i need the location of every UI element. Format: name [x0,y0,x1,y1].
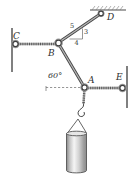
label-E: E [115,72,123,82]
diagram-canvas: C B D A E 60° 5 4 3 [0,0,132,177]
ceiling [90,6,126,10]
statics-diagram: C B D A E 60° 5 4 3 [0,0,132,177]
label-side-4: 4 [75,39,79,47]
label-side-5: 5 [70,22,74,30]
label-angle-60: 60° [48,71,62,80]
hook-icon [78,104,84,117]
rod-BD [59,14,102,43]
chain [84,91,85,104]
ring-D [98,10,104,16]
ring-E [119,84,126,91]
rod-BA [59,44,85,88]
ring-C [12,40,19,47]
label-B: B [47,48,55,58]
angle-reference-line [46,86,81,91]
weight-cylinder [67,131,87,173]
ring-B [55,39,63,47]
label-A: A [87,75,95,85]
label-D: D [106,12,114,22]
ceiling-hatch [92,6,123,10]
label-C: C [13,31,20,41]
label-side-3: 3 [84,28,88,36]
